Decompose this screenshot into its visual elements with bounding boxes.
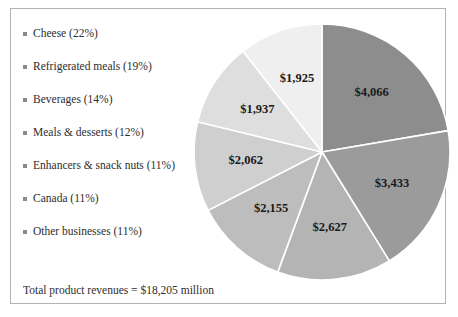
square-bullet-icon [23, 65, 27, 69]
legend-item-meals-desserts[interactable]: Meals & desserts (12%) [17, 126, 217, 159]
chart-figure-frame: Cheese (22%) Refrigerated meals (19%) Be… [10, 8, 446, 304]
pie-slice[interactable] [278, 152, 390, 280]
legend-item-label: Meals & desserts (12%) [33, 126, 144, 139]
pie-slice-value-label: $1,937 [240, 102, 274, 116]
chart-legend: Cheese (22%) Refrigerated meals (19%) Be… [17, 27, 217, 258]
pie-chart: $4,066$3,433$2,627$2,155$2,062$1,937$1,9… [191, 21, 453, 283]
legend-item-beverages[interactable]: Beverages (14%) [17, 93, 217, 126]
pie-slice-labels: $4,066$3,433$2,627$2,155$2,062$1,937$1,9… [229, 71, 410, 234]
legend-item-refrigerated-meals[interactable]: Refrigerated meals (19%) [17, 60, 217, 93]
pie-slice-value-label: $2,155 [254, 201, 288, 215]
legend-item-label: Enhancers & snack nuts (11%) [33, 159, 175, 172]
legend-item-label: Refrigerated meals (19%) [33, 60, 152, 73]
square-bullet-icon [23, 164, 27, 168]
total-revenues-note: Total product revenues = $18,205 million [23, 283, 214, 297]
pie-slice[interactable] [243, 24, 322, 152]
square-bullet-icon [23, 230, 27, 234]
pie-slice-value-label: $3,433 [375, 176, 409, 190]
pie-slice[interactable] [208, 152, 322, 272]
legend-item-label: Beverages (14%) [33, 93, 113, 106]
legend-item-enhancers-snack-nuts[interactable]: Enhancers & snack nuts (11%) [17, 159, 217, 192]
legend-item-label: Other businesses (11%) [33, 225, 142, 238]
pie-slice[interactable] [322, 131, 450, 261]
square-bullet-icon [23, 98, 27, 102]
legend-item-cheese[interactable]: Cheese (22%) [17, 27, 217, 60]
pie-slice-value-label: $2,627 [313, 220, 347, 234]
pie-slice-value-label: $1,925 [280, 71, 314, 85]
legend-item-label: Canada (11%) [33, 192, 99, 205]
pie-slice[interactable] [322, 24, 448, 152]
pie-slices [194, 24, 450, 280]
pie-slice-value-label: $2,062 [229, 153, 263, 167]
square-bullet-icon [23, 197, 27, 201]
pie-slice-value-label: $4,066 [354, 85, 388, 99]
legend-item-other-businesses[interactable]: Other businesses (11%) [17, 225, 217, 258]
legend-item-label: Cheese (22%) [33, 27, 98, 40]
square-bullet-icon [23, 32, 27, 36]
legend-item-canada[interactable]: Canada (11%) [17, 192, 217, 225]
square-bullet-icon [23, 131, 27, 135]
